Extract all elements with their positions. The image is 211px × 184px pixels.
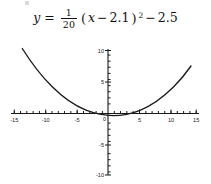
equation-k-value: 2.5 [158,12,178,25]
figure-container: y = 1 20 ( x − 2.1 ) 2 − 2.5 [0,0,211,184]
equation-lhs: y [33,12,40,25]
equation-x-variable: x [88,12,95,25]
y-tick-label: -10 [96,172,104,178]
equation-exponent: 2 [139,12,144,20]
scan-artifact [25,1,29,5]
y-tick-label: 5 [101,79,104,85]
x-tick-label: 10 [168,117,174,123]
equation-fraction: 1 20 [61,8,77,29]
equation-caption: y = 1 20 ( x − 2.1 ) 2 − 2.5 [0,8,211,29]
equation-minus-two: − [145,12,155,25]
x-tick-label: -5 [75,117,80,123]
x-tick-label: 5 [138,117,141,123]
y-tick-label: -5 [99,142,104,148]
close-paren: ) [131,12,136,25]
equation-minus-one: − [97,12,107,25]
equation-equals-sign: = [44,12,54,25]
coordinate-plane-svg: -15 -10 -5 5 10 15 10 5 0 -5 -10 [0,42,211,184]
x-tick-label: -15 [10,117,18,123]
fraction-denominator: 20 [61,20,77,30]
equation-h-value: 2.1 [110,12,130,25]
open-paren: ( [81,12,86,25]
y-tick-label-origin: 0 [103,116,106,122]
equation-row: y = 1 20 ( x − 2.1 ) 2 − 2.5 [33,8,177,29]
graph-plot-area: -15 -10 -5 5 10 15 10 5 0 -5 -10 [0,42,211,184]
y-axis-tick-labels: 10 5 0 -5 -10 [96,48,106,179]
x-tick-label: 15 [193,117,199,123]
y-tick-label: 10 [98,48,104,54]
x-tick-label: -10 [42,117,50,123]
x-axis-major-ticks [14,110,196,114]
fraction-numerator: 1 [64,8,74,18]
